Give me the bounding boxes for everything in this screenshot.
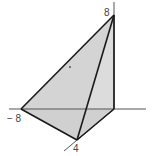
point-marker	[69, 66, 71, 68]
tetrahedron-diagram: 8 − 8 4	[0, 0, 153, 156]
label-z-intercept: 8	[104, 7, 110, 18]
label-x-intercept: − 8	[7, 113, 22, 124]
label-y-intercept: 4	[73, 143, 79, 154]
